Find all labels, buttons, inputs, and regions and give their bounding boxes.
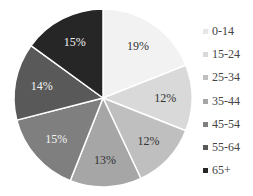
legend-item-15-24: 15-24	[203, 47, 240, 61]
legend-swatch-icon	[203, 52, 208, 57]
pie-slice-label: 19%	[127, 39, 149, 53]
legend-swatch-icon	[203, 75, 208, 80]
legend-swatch-icon	[203, 29, 208, 34]
legend-swatch-icon	[203, 168, 208, 173]
legend-label: 0-14	[212, 24, 234, 39]
legend-item-25-34: 25-34	[203, 70, 240, 84]
legend-label: 45-54	[212, 117, 240, 132]
legend-label: 35-44	[212, 94, 240, 109]
legend-label: 25-34	[212, 70, 240, 85]
legend-item-55-64: 55-64	[203, 140, 240, 154]
legend-label: 15-24	[212, 47, 240, 62]
legend-swatch-icon	[203, 99, 208, 104]
pie-slice-label: 12%	[154, 91, 176, 105]
pie-slice-label: 14%	[31, 79, 53, 93]
legend-swatch-icon	[203, 145, 208, 150]
pie-slice-label: 15%	[45, 132, 67, 146]
pie-slice-label: 13%	[94, 153, 116, 167]
legend-item-35-44: 35-44	[203, 94, 240, 108]
legend-item-65-plus: 65+	[203, 163, 231, 177]
legend-item-45-54: 45-54	[203, 117, 240, 131]
pie-slice-label: 12%	[137, 134, 159, 148]
legend-swatch-icon	[203, 122, 208, 127]
legend-label: 65+	[212, 163, 231, 178]
legend-item-0-14: 0-14	[203, 24, 234, 38]
pie-slice-label: 15%	[64, 35, 86, 49]
legend-label: 55-64	[212, 140, 240, 155]
